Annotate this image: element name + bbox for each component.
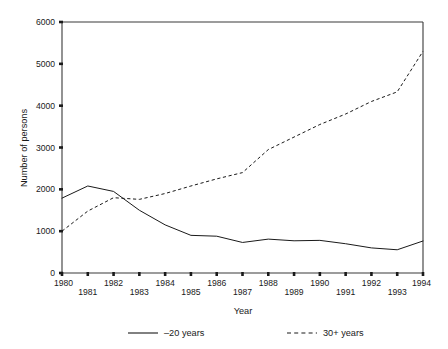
x-axis-title: Year bbox=[234, 306, 253, 316]
y-tick-label: 0 bbox=[50, 268, 55, 278]
x-tick-label: 1986 bbox=[207, 278, 226, 288]
x-tick-label: 1983 bbox=[130, 287, 149, 297]
x-tick-label: 1980 bbox=[54, 278, 73, 288]
x-tick-label: 1984 bbox=[156, 278, 175, 288]
y-tick-label: 6000 bbox=[36, 17, 55, 27]
x-tick-label: 1990 bbox=[310, 278, 329, 288]
x-axis-ticks: 1980198119821983198419851986198719881989… bbox=[54, 272, 431, 297]
y-tick-label: 3000 bbox=[36, 143, 55, 153]
x-tick-label: 1993 bbox=[388, 287, 407, 297]
x-tick-label: 1994 bbox=[412, 278, 431, 288]
y-tick-label: 5000 bbox=[36, 59, 55, 69]
legend-label-30-plus-years: 30+ years bbox=[323, 328, 364, 338]
x-tick-label: 1988 bbox=[259, 278, 278, 288]
x-tick-label: 1982 bbox=[104, 278, 123, 288]
y-axis-ticks: 0100020003000400050006000 bbox=[36, 17, 63, 278]
x-tick-label: 1981 bbox=[78, 287, 97, 297]
y-tick-label: 4000 bbox=[36, 101, 55, 111]
line-chart: 0100020003000400050006000 19801981198219… bbox=[0, 0, 448, 349]
x-tick-label: 1991 bbox=[336, 287, 355, 297]
plot-background bbox=[62, 22, 423, 273]
y-axis-title: Number of persons bbox=[19, 109, 29, 188]
legend-label-under-20-years: –20 years bbox=[164, 328, 205, 338]
x-tick-label: 1989 bbox=[285, 287, 304, 297]
y-tick-label: 1000 bbox=[36, 226, 55, 236]
x-tick-label: 1985 bbox=[181, 287, 200, 297]
chart-legend: –20 years 30+ years bbox=[128, 328, 364, 338]
y-tick-label: 2000 bbox=[36, 184, 55, 194]
x-tick-label: 1987 bbox=[233, 287, 252, 297]
x-tick-label: 1992 bbox=[362, 278, 381, 288]
chart-figure: 0100020003000400050006000 19801981198219… bbox=[0, 0, 448, 349]
